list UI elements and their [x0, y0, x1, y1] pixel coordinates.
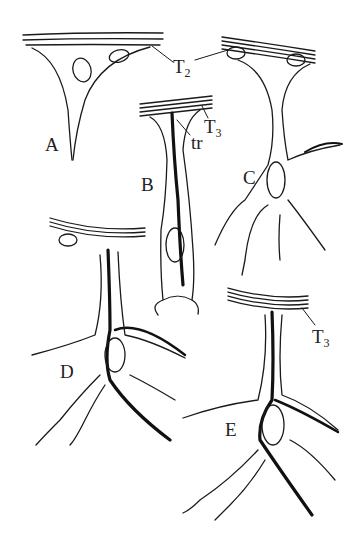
panel-e-drawing	[183, 288, 338, 520]
annotation-t3-panel-e: T3	[312, 327, 330, 349]
annotation-t3-panel-b: T3	[204, 117, 222, 139]
panel-label-a: A	[45, 135, 59, 154]
panel-c-drawing	[195, 37, 342, 275]
panel-label-d: D	[60, 362, 74, 381]
annotation-t2: T2	[173, 57, 191, 79]
panel-label-e: E	[225, 420, 237, 439]
panel-label-c: C	[243, 168, 256, 187]
line-drawing	[0, 0, 363, 543]
panel-b-drawing	[140, 96, 212, 315]
annotation-tr: tr	[191, 133, 203, 152]
panel-label-b: B	[141, 175, 154, 194]
panel-d-drawing	[32, 218, 185, 445]
cell-illustration-figure: A B C D E T2 T3 tr T3	[0, 0, 363, 543]
